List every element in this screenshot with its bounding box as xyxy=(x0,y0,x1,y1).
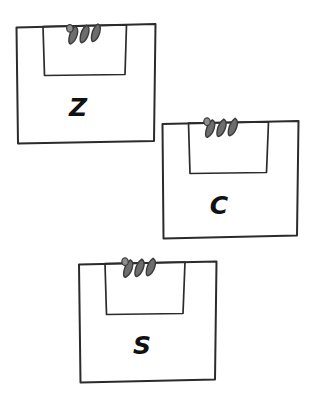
bag-letter-label: Z xyxy=(68,93,88,122)
bag-z[interactable]: Z xyxy=(17,21,156,143)
bag-inner-panel xyxy=(105,262,185,315)
coil-end-bead xyxy=(204,118,211,126)
bag-outer-outline xyxy=(79,262,217,383)
sketch-figure: ZCS xyxy=(0,0,309,394)
coil-scribble-icon xyxy=(204,116,239,138)
bag-letter-label: C xyxy=(210,191,229,220)
coil-end-bead xyxy=(122,258,129,266)
coil-scribble-icon xyxy=(122,256,157,278)
bag-letter-label: S xyxy=(133,331,151,360)
bag-outer-outline xyxy=(17,24,156,144)
sketch-canvas: ZCS xyxy=(0,0,309,394)
bag-s[interactable]: S xyxy=(79,256,217,383)
coil-end-bead xyxy=(66,24,73,32)
bag-outer-outline xyxy=(163,121,299,239)
bag-c[interactable]: C xyxy=(163,116,299,239)
